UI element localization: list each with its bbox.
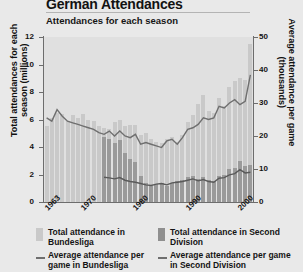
right-axis-tick-label: 30 xyxy=(259,98,285,107)
legend-label: Average attendance per game in Bundeslig… xyxy=(48,250,158,270)
right-axis-tick-label: 40 xyxy=(259,65,285,74)
legend-swatch-line-icon xyxy=(158,251,165,264)
left-axis-tick xyxy=(39,202,43,203)
legend-swatch-bar-icon xyxy=(36,228,43,241)
left-axis-line xyxy=(43,36,44,203)
chart-root: German Attendances Attendances for each … xyxy=(0,0,303,272)
right-axis-tick xyxy=(254,70,258,71)
left-axis-tick-label: 2 xyxy=(8,170,34,179)
left-axis-tick-label: 6 xyxy=(8,115,34,124)
left-axis-tick xyxy=(39,92,43,93)
right-axis-tick-label: 0 xyxy=(259,197,285,206)
left-axis-tick xyxy=(39,175,43,176)
right-axis-tick xyxy=(254,202,258,203)
right-axis-tick xyxy=(254,169,258,170)
bottom-axis-line xyxy=(43,202,254,203)
chart-title: German Attendances xyxy=(46,0,183,12)
line-bundesliga-average xyxy=(47,75,251,148)
left-axis-tick-label: 8 xyxy=(8,87,34,96)
chart-subtitle: Attendances for each season xyxy=(46,15,178,26)
right-axis-tick xyxy=(254,136,258,137)
left-axis-tick-label: 10 xyxy=(8,60,34,69)
legend-swatch-line-icon xyxy=(36,251,43,264)
title-divider xyxy=(46,12,250,13)
right-axis-tick xyxy=(254,103,258,104)
chart-legend: Total attendance in Bundesliga Total att… xyxy=(36,227,298,270)
left-axis-tick xyxy=(39,147,43,148)
legend-item-bundesliga-total: Total attendance in Bundesliga xyxy=(36,227,158,247)
line-layer xyxy=(44,37,253,202)
left-axis-tick xyxy=(39,120,43,121)
left-axis-tick-label: 4 xyxy=(8,142,34,151)
left-axis-tick-label: 12 xyxy=(8,32,34,41)
legend-label: Average attendance per game in Second Di… xyxy=(170,250,298,270)
line-second-division-average xyxy=(104,170,250,186)
right-axis-line xyxy=(253,36,254,203)
legend-item-bundesliga-average: Average attendance per game in Bundeslig… xyxy=(36,250,158,270)
legend-swatch-bar-icon xyxy=(158,228,165,241)
left-axis-tick xyxy=(39,37,43,38)
plot-area xyxy=(44,37,253,202)
legend-label: Total attendance in Bundesliga xyxy=(48,227,158,247)
left-axis-tick-label: 0 xyxy=(8,197,34,206)
right-axis-tick-label: 50 xyxy=(259,32,285,41)
right-axis-tick xyxy=(254,37,258,38)
legend-item-second-division-total: Total attendance in Second Division xyxy=(158,227,298,247)
right-axis-tick-label: 10 xyxy=(259,164,285,173)
legend-label: Total attendance in Second Division xyxy=(170,227,298,247)
left-axis-tick xyxy=(39,65,43,66)
right-axis-tick-label: 20 xyxy=(259,131,285,140)
legend-item-second-division-average: Average attendance per game in Second Di… xyxy=(158,250,298,270)
